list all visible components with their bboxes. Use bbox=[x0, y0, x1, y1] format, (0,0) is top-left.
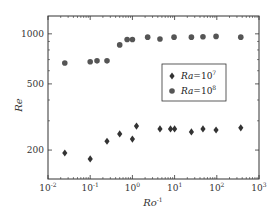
legend-label-series-1: Ra=107 bbox=[180, 69, 216, 81]
data-point-series-2 bbox=[117, 42, 123, 48]
data-point-series-2 bbox=[124, 37, 130, 43]
data-point-series-1 bbox=[157, 125, 162, 132]
legend: Ra=107Ra=108 bbox=[162, 64, 226, 101]
chart: 10-210-1100101102103 2005001000 Re Ro-1 … bbox=[0, 0, 277, 213]
data-point-series-2 bbox=[130, 37, 136, 43]
x-tick-label: 100 bbox=[125, 181, 140, 193]
x-tick-label: 103 bbox=[251, 181, 266, 193]
data-point-series-2 bbox=[200, 34, 206, 40]
x-axis-label: Ro-1 bbox=[142, 196, 162, 208]
data-point-series-2 bbox=[213, 34, 219, 40]
data-point-series-1 bbox=[117, 130, 122, 137]
data-point-series-2 bbox=[87, 59, 93, 65]
data-point-series-1 bbox=[104, 138, 109, 145]
x-tick-label: 10-1 bbox=[82, 181, 99, 193]
data-point-series-2 bbox=[189, 34, 195, 40]
legend-marker-series-2 bbox=[169, 88, 175, 94]
plot-frame bbox=[48, 16, 259, 179]
y-tick-label: 500 bbox=[27, 79, 44, 89]
x-tick-label: 10-2 bbox=[39, 181, 56, 193]
y-axis-label: Re bbox=[13, 98, 24, 113]
data-point-series-1 bbox=[213, 126, 218, 133]
x-tick-label: 102 bbox=[209, 181, 224, 193]
data-point-series-2 bbox=[94, 58, 100, 64]
x-axis-label-sup: -1 bbox=[157, 196, 163, 203]
data-point-series-1 bbox=[189, 128, 194, 135]
data-point-series-2 bbox=[145, 34, 151, 40]
data-point-series-1 bbox=[238, 124, 243, 131]
data-point-series-1 bbox=[88, 155, 93, 162]
data-point-series-2 bbox=[104, 58, 110, 64]
data-point-series-1 bbox=[134, 122, 139, 129]
y-tick-label: 200 bbox=[27, 145, 44, 155]
data-point-series-2 bbox=[62, 60, 68, 66]
x-axis-label-base: Ro bbox=[142, 197, 157, 208]
data-point-series-2 bbox=[238, 34, 244, 40]
data-point-series-1 bbox=[172, 125, 177, 132]
data-point-series-1 bbox=[130, 135, 135, 142]
data-point-series-1 bbox=[62, 149, 67, 156]
y-tick-label: 1000 bbox=[21, 29, 44, 39]
data-point-series-1 bbox=[200, 125, 205, 132]
x-tick-label: 101 bbox=[167, 181, 182, 193]
data-point-series-2 bbox=[157, 36, 163, 42]
data-point-series-2 bbox=[171, 34, 177, 40]
legend-label-series-2: Ra=108 bbox=[180, 84, 216, 96]
x-ticks: 10-210-1100101102103 bbox=[39, 16, 266, 193]
